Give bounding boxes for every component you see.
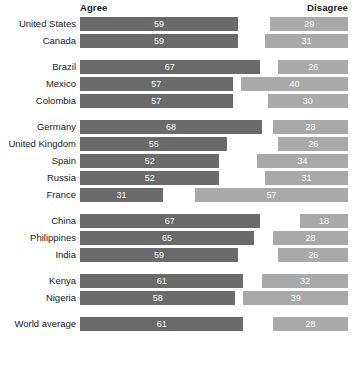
disagree-value: 39 bbox=[243, 291, 348, 305]
disagree-value: 29 bbox=[270, 17, 348, 31]
row-group: Brazil6726Mexico5740Colombia5730 bbox=[0, 60, 356, 108]
agree-value: 57 bbox=[80, 77, 233, 91]
disagree-value: 40 bbox=[241, 77, 348, 91]
agree-value: 57 bbox=[80, 94, 233, 108]
agree-bar: 59 bbox=[80, 34, 238, 48]
row-label: Colombia bbox=[0, 94, 76, 108]
chart-row: Colombia5730 bbox=[0, 94, 356, 108]
disagree-bar: 26 bbox=[278, 137, 348, 151]
agree-bar: 52 bbox=[80, 171, 219, 185]
chart-row: Russia5231 bbox=[0, 171, 356, 185]
row-label: United States bbox=[0, 17, 76, 31]
disagree-value: 26 bbox=[278, 137, 348, 151]
agree-value: 59 bbox=[80, 17, 238, 31]
row-label: Russia bbox=[0, 171, 76, 185]
chart-row: Spain5234 bbox=[0, 154, 356, 168]
disagree-value: 30 bbox=[268, 94, 348, 108]
agree-bar: 58 bbox=[80, 291, 235, 305]
agree-value: 67 bbox=[80, 214, 260, 228]
row-group: Kenya6132Nigeria5839 bbox=[0, 274, 356, 305]
disagree-value: 26 bbox=[278, 60, 348, 74]
disagree-bar: 57 bbox=[195, 188, 348, 202]
disagree-bar: 31 bbox=[265, 171, 348, 185]
row-group: China6718Philippines6528India5926 bbox=[0, 214, 356, 262]
row-label: Philippines bbox=[0, 231, 76, 245]
chart-row: France3157 bbox=[0, 188, 356, 202]
agree-bar: 55 bbox=[80, 137, 227, 151]
disagree-bar: 26 bbox=[278, 60, 348, 74]
row-group: United States5929Canada5931 bbox=[0, 17, 356, 48]
disagree-value: 31 bbox=[265, 171, 348, 185]
disagree-bar: 31 bbox=[265, 34, 348, 48]
agree-value: 68 bbox=[80, 120, 262, 134]
disagree-value: 28 bbox=[273, 231, 348, 245]
chart-row: Philippines6528 bbox=[0, 231, 356, 245]
agree-bar: 59 bbox=[80, 248, 238, 262]
agree-bar: 57 bbox=[80, 77, 233, 91]
agree-bar: 52 bbox=[80, 154, 219, 168]
row-label: Germany bbox=[0, 120, 76, 134]
disagree-value: 26 bbox=[278, 248, 348, 262]
agree-value: 61 bbox=[80, 274, 243, 288]
disagree-bar: 34 bbox=[257, 154, 348, 168]
agree-value: 55 bbox=[80, 137, 227, 151]
row-label: Canada bbox=[0, 34, 76, 48]
row-group: World average6128 bbox=[0, 317, 356, 331]
chart-row: World average6128 bbox=[0, 317, 356, 331]
agree-bar: 67 bbox=[80, 60, 260, 74]
agree-bar: 57 bbox=[80, 94, 233, 108]
agree-bar: 67 bbox=[80, 214, 260, 228]
chart-row: United States5929 bbox=[0, 17, 356, 31]
disagree-bar: 28 bbox=[273, 120, 348, 134]
chart-rows: United States5929Canada5931Brazil6726Mex… bbox=[0, 17, 356, 331]
disagree-bar: 29 bbox=[270, 17, 348, 31]
chart-row: United Kingdom5526 bbox=[0, 137, 356, 151]
agree-value: 58 bbox=[80, 291, 235, 305]
disagree-bar: 28 bbox=[273, 317, 348, 331]
agree-value: 59 bbox=[80, 248, 238, 262]
chart-row: Nigeria5839 bbox=[0, 291, 356, 305]
row-label: World average bbox=[0, 317, 76, 331]
row-label: India bbox=[0, 248, 76, 262]
agree-value: 59 bbox=[80, 34, 238, 48]
disagree-value: 32 bbox=[262, 274, 348, 288]
chart-row: Mexico5740 bbox=[0, 77, 356, 91]
agree-column-header: Agree bbox=[80, 2, 107, 13]
disagree-value: 31 bbox=[265, 34, 348, 48]
row-label: France bbox=[0, 188, 76, 202]
disagree-value: 28 bbox=[273, 317, 348, 331]
chart-row: Germany6828 bbox=[0, 120, 356, 134]
disagree-bar: 32 bbox=[262, 274, 348, 288]
disagree-bar: 18 bbox=[300, 214, 348, 228]
agree-bar: 61 bbox=[80, 274, 243, 288]
agree-value: 65 bbox=[80, 231, 254, 245]
row-label: Mexico bbox=[0, 77, 76, 91]
agree-value: 31 bbox=[80, 188, 163, 202]
agree-bar: 59 bbox=[80, 17, 238, 31]
disagree-bar: 39 bbox=[243, 291, 348, 305]
disagree-value: 57 bbox=[195, 188, 348, 202]
disagree-column-header: Disagree bbox=[307, 2, 348, 13]
chart-row: India5926 bbox=[0, 248, 356, 262]
agree-bar: 68 bbox=[80, 120, 262, 134]
disagree-bar: 28 bbox=[273, 231, 348, 245]
disagree-bar: 30 bbox=[268, 94, 348, 108]
row-label: Nigeria bbox=[0, 291, 76, 305]
disagree-value: 28 bbox=[273, 120, 348, 134]
disagree-bar: 26 bbox=[278, 248, 348, 262]
agree-value: 52 bbox=[80, 171, 219, 185]
chart-row: Canada5931 bbox=[0, 34, 356, 48]
agree-value: 52 bbox=[80, 154, 219, 168]
chart-row: China6718 bbox=[0, 214, 356, 228]
chart-row: Brazil6726 bbox=[0, 60, 356, 74]
agree-bar: 31 bbox=[80, 188, 163, 202]
row-label: Spain bbox=[0, 154, 76, 168]
chart-row: Kenya6132 bbox=[0, 274, 356, 288]
agree-bar: 61 bbox=[80, 317, 243, 331]
agree-bar: 65 bbox=[80, 231, 254, 245]
row-label: Brazil bbox=[0, 60, 76, 74]
disagree-value: 18 bbox=[300, 214, 348, 228]
row-group: Germany6828United Kingdom5526Spain5234Ru… bbox=[0, 120, 356, 202]
agree-value: 67 bbox=[80, 60, 260, 74]
row-label: China bbox=[0, 214, 76, 228]
